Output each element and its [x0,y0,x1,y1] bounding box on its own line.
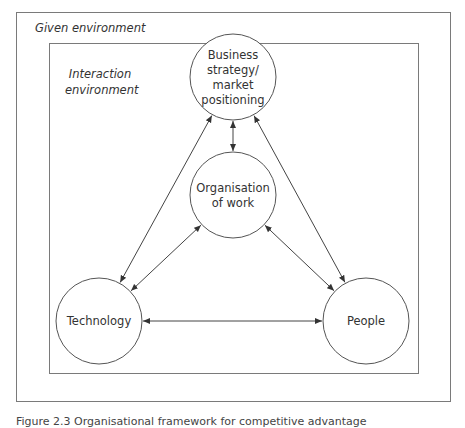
node-label-line: market [213,78,254,92]
node-label-line: strategy/ [207,63,259,77]
arrow-organisation-technology [131,225,201,291]
node-label-line: Organisation [196,181,269,195]
node-label-line: People [347,314,385,328]
node-technology: Technology [56,278,142,364]
node-people: People [323,278,409,364]
node-label-line: of work [212,196,255,210]
nodes-group: Businessstrategy/marketpositioningOrgani… [56,34,409,364]
node-organisation: Organisationof work [190,152,276,238]
node-label-line: positioning [201,93,264,107]
arrow-organisation-people [265,225,334,290]
node-label-line: Technology [66,314,132,328]
node-label-line: Business [208,48,259,62]
figure-caption: Figure 2.3 Organisational framework for … [16,415,367,428]
node-business: Businessstrategy/marketpositioning [190,34,276,120]
